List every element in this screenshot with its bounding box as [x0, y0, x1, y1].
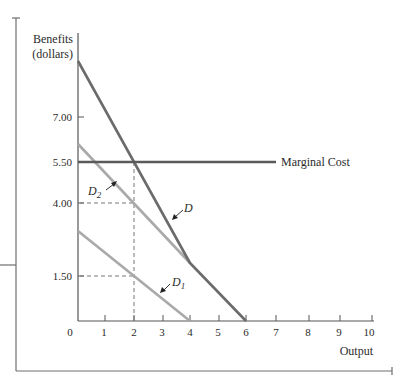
- chart: Benefits (dollars) 7.00 5.50 4.00 1.50 0…: [0, 0, 398, 390]
- y-ticks: [78, 117, 84, 276]
- x-tick-label: 10: [364, 326, 376, 338]
- x-tick-label: 1: [101, 326, 107, 338]
- y-axis-title-line1: Benefits: [33, 32, 73, 46]
- d2-subscript: 2: [97, 190, 102, 200]
- x-tick-label: 9: [336, 326, 342, 338]
- x-tick-label: 0: [67, 326, 73, 338]
- d-label: D: [183, 201, 193, 215]
- d-arrow-icon: [175, 210, 183, 217]
- d-annotation: D: [172, 201, 193, 220]
- d-line: [78, 61, 246, 321]
- svg-text:D2: D2: [87, 184, 102, 200]
- x-tick-label: 5: [215, 326, 221, 338]
- y-tick-label: 7.00: [53, 111, 73, 123]
- x-axis-title: Output: [340, 344, 374, 358]
- d2-annotation: D2: [87, 181, 117, 200]
- d1-label: D: [171, 275, 181, 289]
- y-tick-label: 1.50: [53, 270, 73, 282]
- d1-arrowhead-icon: [160, 287, 166, 293]
- y-axis-title-line2: (dollars): [32, 47, 73, 61]
- d1-subscript: 1: [181, 281, 186, 291]
- x-ticks: [105, 315, 372, 321]
- x-tick-label: 2: [131, 326, 137, 338]
- y-tick-label: 4.00: [53, 197, 73, 209]
- d2-label: D: [87, 184, 97, 198]
- x-tick-label: 4: [187, 326, 193, 338]
- x-tick-label: 6: [243, 326, 249, 338]
- svg-text:D1: D1: [171, 275, 185, 291]
- x-tick-label: 8: [305, 326, 311, 338]
- d1-annotation: D1: [160, 275, 185, 293]
- x-tick-labels: 0 1 2 3 4 5 6 7 8 9 10: [67, 326, 375, 338]
- marginal-cost-label: Marginal Cost: [281, 155, 350, 169]
- axes: [78, 33, 374, 321]
- x-tick-label: 7: [273, 326, 279, 338]
- x-tick-label: 3: [159, 326, 165, 338]
- y-tick-label: 5.50: [53, 156, 73, 168]
